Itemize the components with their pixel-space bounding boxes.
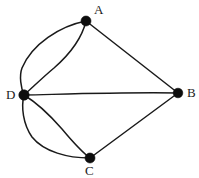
vertex-d [19, 90, 29, 100]
vertex-b [173, 88, 183, 98]
edge-d-c [24, 95, 90, 158]
graph-canvas [0, 0, 199, 178]
graph-diagram: ABCD [0, 0, 199, 178]
edge-c-b [90, 93, 178, 158]
edge-d-b [24, 93, 178, 95]
vertex-label-d: D [6, 88, 15, 101]
edge-layer [21, 21, 178, 158]
vertex-label-c: C [85, 164, 94, 177]
vertex-label-b: B [187, 86, 196, 99]
vertex-a [81, 16, 91, 26]
edge-a-b [86, 21, 178, 93]
edge-a-d [21, 21, 86, 95]
vertex-layer [19, 16, 183, 163]
vertex-label-a: A [94, 3, 103, 16]
vertex-c [85, 153, 95, 163]
